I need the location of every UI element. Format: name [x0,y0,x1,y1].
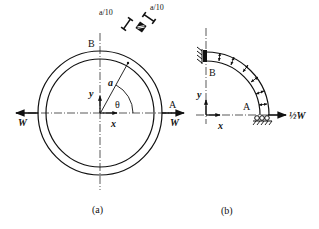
y-axis-label: y [88,88,94,99]
load-label-right: W [170,117,180,128]
caption-b: (b) [221,205,233,217]
point-label-b: B [88,38,95,49]
section-square [135,21,146,32]
half-load-label: ½W [289,110,307,121]
section-dim-label-1: a/10 [99,8,113,17]
theta-label: θ [115,99,120,110]
load-label-left: W [18,117,28,128]
figure-a: W W B A a θ y x a/10 a/10 [16,3,184,216]
point-label-a: A [169,99,177,110]
radius-end-dot [127,62,129,64]
radius-label: a [108,77,113,88]
roller-support-a [253,116,272,125]
y-axis-label-b: y [196,89,202,100]
section-dim-label-2: a/10 [150,3,164,12]
radial-stress-arrows [219,53,267,105]
x-axis-label-b: x [217,120,223,131]
point-label-b2: B [209,67,216,78]
figure-b: B A ½W y x (b) [196,28,307,217]
fixed-support-b [197,47,207,64]
cross-section-detail: a/10 a/10 [99,3,164,33]
diagram-canvas: W W B A a θ y x a/10 a/10 [0,0,319,229]
point-label-a2: A [243,101,251,112]
caption-a: (a) [92,204,103,216]
x-axis-label: x [110,118,116,129]
